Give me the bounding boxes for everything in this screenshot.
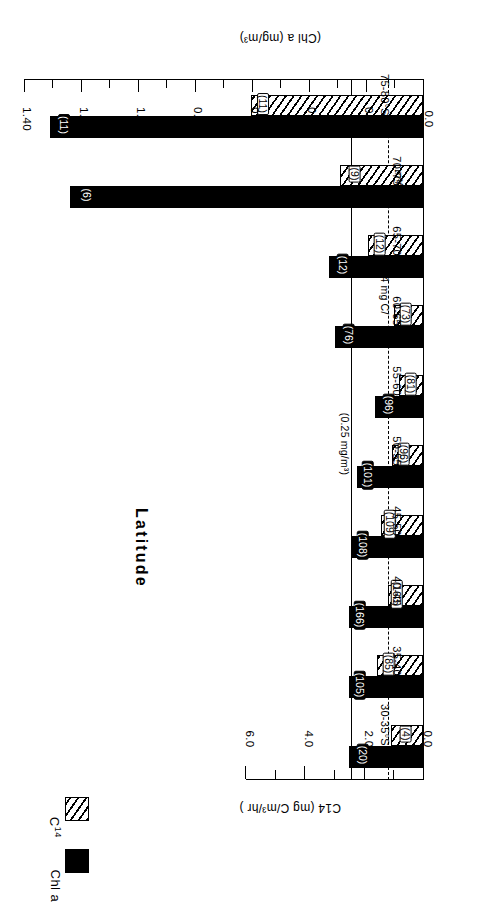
legend-label-superscript: 14 [53,827,63,838]
annotation-chla-threshold: (0.25 mg/m³) [339,413,351,476]
axis-tick-minor [334,770,335,779]
bar-c14[interactable]: (11) [251,95,423,116]
axis-tick-label-chla: 0.80 [192,107,204,131]
bar-c14[interactable]: (9) [340,165,423,186]
bar-chla[interactable]: (76) [335,326,423,348]
axis-tick-major [24,79,25,92]
axis-tick-label-chla: 0.60 [249,107,261,131]
bar-value-label-chla: (108) [356,531,368,560]
axis-tick-label-c14: 2.0 [363,730,375,747]
category-label-latitude: 65-70 [391,226,403,256]
bar-value-label-chla: (96) [382,394,394,417]
axis-tick-label-chla: 1.20 [78,107,90,131]
legend-label: C14 [47,817,63,838]
axis-tick-label-c14: 4.0 [304,730,316,747]
axis-tick-minor [53,79,54,88]
axis-tick-major [423,766,424,779]
bar-chla[interactable]: (6) [70,186,423,208]
axis-tick-major [81,79,82,92]
axis-tick-major [245,766,246,779]
axis-c14: 0.02.04.06.0 [246,779,424,780]
category-label-latitude: 55-60 [391,366,403,396]
bar-group: (76)(73)60-65 [24,278,423,348]
bar-chla[interactable]: (12) [329,256,423,278]
bar-value-label-chla: (12) [337,254,349,277]
axis-tick-label-chla: 0.0 [423,110,435,127]
bar-value-label-chla: (76) [342,324,354,347]
annotation-c14-threshold: (1.14 mg C/ [380,257,392,314]
category-label-latitude: 35-40 [391,646,403,676]
axis-tick-major [364,766,365,779]
axis-tick-label-c14: 0.0 [422,730,434,747]
legend-label: Chl a [48,870,63,902]
bar-chla[interactable]: (101) [357,466,423,488]
bar-c14[interactable]: (4) [391,725,423,746]
annotation-c14-threshold-units: m³/hr) [394,169,406,198]
axis-title-latitude: Latitude [132,508,150,588]
bar-chla[interactable]: (166) [349,606,423,628]
category-label-latitude: 30-35°S [379,704,391,746]
axis-tick-minor [110,79,111,88]
bar-group: (105)(85)35-40 [24,628,423,698]
plot-area: (20)(4)30-35°S(105)(85)35-40(166)(163)40… [25,80,424,780]
bar-group: (12)(12)65-70 [24,208,423,278]
axis-tick-major [366,79,367,92]
legend-swatch-c14 [65,797,89,821]
bar-group: (6)(9)70-75 [24,138,423,208]
axis-tick-major [423,79,424,92]
axis-tick-minor [224,79,225,88]
bar-group: (101)(96)50-55 [24,418,423,488]
axis-tick-label-chla: 1.00 [135,107,147,131]
category-label-latitude: 45-50 [391,506,403,536]
bar-group: (108)(109)45-50 [24,488,423,558]
bar-value-label-c14: (12) [374,233,386,256]
axis-chla: 0.00.200.400.600.801.001.201.40 [25,79,424,80]
legend-item[interactable]: C14 [49,769,89,821]
bar-value-label-chla: (166) [354,601,366,630]
bar-chla[interactable]: (108) [352,536,423,558]
bar-value-label-chla: (6) [80,187,92,204]
bar-value-label-c14: (9) [349,166,361,183]
axis-tick-label-chla: 0.40 [306,107,318,131]
category-label-latitude: 75-80°S [379,74,391,116]
category-label-latitude: 50-55 [391,436,403,466]
bar-chla[interactable]: (20) [349,746,423,768]
bar-value-label-chla: (11) [58,114,70,136]
axis-tick-label-chla: 0.20 [363,107,375,131]
axis-tick-minor [393,770,394,779]
axis-tick-major [138,79,139,92]
axis-tick-minor [395,79,396,88]
legend: Chl aC14 [49,769,89,873]
bar-value-label-chla: (101) [362,461,374,490]
bar-group: (166)(163)40-45 [24,558,423,628]
axis-tick-minor [338,79,339,88]
bar-chla[interactable]: (105) [349,676,423,698]
bar-chla[interactable]: (96) [375,396,423,418]
bar-value-label-c14: (81) [405,373,417,396]
axis-tick-minor [167,79,168,88]
axis-tick-major [252,79,253,92]
axis-tick-label-c14: 6.0 [244,730,256,747]
category-label-latitude: 60-65 [391,296,403,326]
axis-tick-label-chla: 1.40 [21,107,33,131]
bar-value-label-chla: (105) [354,671,366,700]
axis-title-chla: (Chl a (mg/m³) [239,31,321,45]
axis-tick-major [304,766,305,779]
axis-title-c14: C14 (mg C/m³/hr ) [239,801,341,815]
axis-tick-minor [275,770,276,779]
axis-tick-major [195,79,196,92]
bar-group: (96)(81)55-60 [24,348,423,418]
axis-tick-major [309,79,310,92]
bar-value-label-c14: (4) [400,726,412,743]
legend-swatch-chla [65,849,89,873]
category-label-latitude: 40-45 [391,576,403,606]
axis-tick-minor [281,79,282,88]
